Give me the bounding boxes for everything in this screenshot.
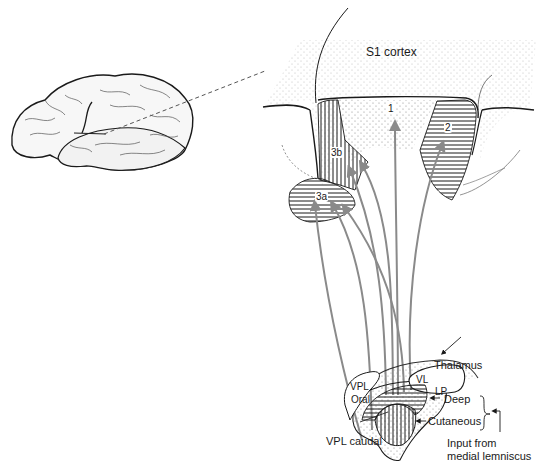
- area-3b-label: 3b: [330, 147, 343, 158]
- area-2-label: 2: [444, 122, 452, 133]
- input-label-line1: Input from: [447, 438, 497, 449]
- nucleus-vl-label: VL: [416, 375, 428, 385]
- thalamus-label: Thalamus: [434, 360, 482, 371]
- brain-illustration: [12, 74, 193, 170]
- nucleus-vpl-caudal-label: VPL caudal: [326, 436, 382, 447]
- layer-deep-label: Deep: [444, 394, 470, 405]
- nucleus-vpl-oral-label-line1: VPL: [350, 382, 369, 392]
- area-1-label: 1: [387, 103, 395, 114]
- input-label-line2: medial lemniscus: [447, 451, 531, 462]
- nucleus-vpl-oral-label-line2: Oral: [351, 395, 370, 405]
- s1-cortex-section: [263, 8, 536, 222]
- s1-cortex-title: S1 cortex: [366, 46, 417, 58]
- area-3a-label: 3a: [315, 191, 328, 202]
- layer-cutaneous-label: Cutaneous: [428, 416, 481, 427]
